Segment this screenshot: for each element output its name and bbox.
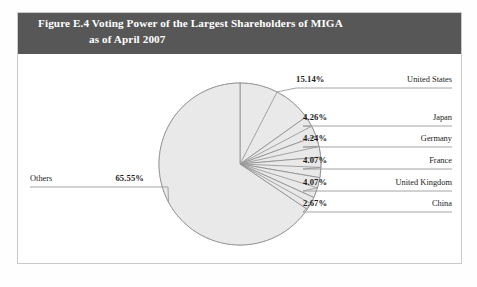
pie-label-united-states: 15.14% United States: [296, 74, 452, 88]
pie-label-china-name: China: [432, 199, 452, 208]
pie-label-united-kingdom-value: 4.07%: [303, 177, 327, 187]
pie-leader-elbow-0: [277, 88, 296, 92]
pie-label-germany-value: 4.24%: [303, 133, 327, 143]
pie-label-china-value: 2.67%: [303, 198, 327, 208]
pie-label-united-states-value: 15.14%: [296, 74, 325, 84]
pie-label-united-kingdom: 4.07% United Kingdom: [303, 177, 452, 191]
pie-label-france-value: 4.07%: [303, 155, 327, 165]
figure-container: Figure E.4 Voting Power of the Largest S…: [0, 0, 477, 287]
pie-label-germany: 4.24% Germany: [303, 133, 452, 147]
pie-label-china: 2.67% China: [303, 198, 452, 212]
pie-label-others: Others 65.55%: [30, 173, 168, 187]
pie-label-japan-name: Japan: [433, 113, 452, 122]
pie-label-germany-name: Germany: [421, 134, 452, 143]
pie-label-japan-value: 4.26%: [303, 112, 327, 122]
pie-label-france: 4.07% France: [303, 155, 452, 169]
pie-label-united-states-name: United States: [407, 75, 452, 84]
pie-label-united-kingdom-name: United Kingdom: [395, 178, 452, 187]
pie-label-japan: 4.26% Japan: [303, 112, 452, 126]
pie-label-others-value: 65.55%: [115, 173, 144, 183]
pie-label-others-name: Others: [30, 174, 52, 183]
pie-label-france-name: France: [429, 156, 452, 165]
